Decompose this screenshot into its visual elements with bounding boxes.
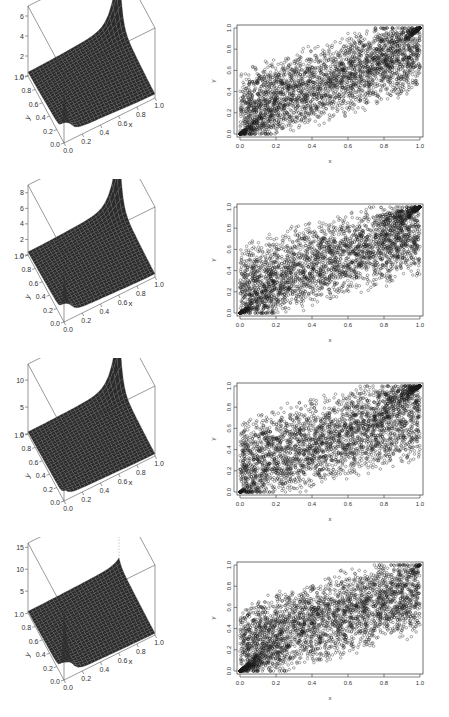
- data-point: [267, 482, 270, 485]
- data-point: [341, 107, 344, 110]
- y-tick-label: 1.0: [226, 23, 232, 32]
- y-axis-label: y: [23, 114, 33, 122]
- data-point: [280, 594, 283, 597]
- data-point: [278, 85, 281, 88]
- surface-plot-3: 0.00.20.40.60.81.00.00.20.40.60.81.00510…: [0, 358, 200, 537]
- data-point: [373, 564, 376, 567]
- panel-row-1: 0.00.20.40.60.81.00.00.20.40.60.81.00246…: [0, 0, 449, 179]
- data-point: [299, 628, 302, 631]
- y-tick-label: 0.2: [43, 486, 53, 493]
- data-point: [379, 389, 382, 392]
- data-point: [281, 262, 284, 265]
- data-point: [275, 629, 278, 632]
- data-point: [257, 241, 260, 244]
- x-tick: [119, 295, 121, 298]
- data-point: [300, 486, 303, 489]
- data-point: [332, 295, 335, 298]
- data-point: [283, 411, 286, 414]
- data-point: [294, 645, 297, 648]
- data-point: [361, 459, 364, 462]
- data-point: [321, 464, 324, 467]
- data-point: [327, 577, 330, 580]
- y-axis-label: y: [210, 259, 216, 262]
- data-point: [385, 285, 388, 288]
- data-point: [268, 131, 271, 134]
- data-point: [253, 246, 256, 249]
- data-point: [316, 301, 319, 304]
- data-point: [323, 394, 326, 397]
- data-point: [274, 488, 277, 491]
- y-tick: [32, 447, 35, 448]
- data-point: [404, 593, 407, 596]
- y-tick-label: 0.4: [226, 87, 232, 96]
- data-point: [367, 448, 370, 451]
- x-tick: [82, 671, 84, 674]
- data-point: [245, 78, 248, 81]
- data-point: [269, 605, 272, 608]
- data-point: [360, 291, 363, 294]
- data-point: [345, 440, 348, 443]
- data-point: [299, 484, 302, 487]
- data-point: [306, 586, 309, 589]
- data-point: [282, 667, 285, 670]
- data-point: [385, 462, 388, 465]
- data-point: [365, 408, 368, 411]
- y-tick: [25, 613, 28, 614]
- data-point: [418, 616, 421, 619]
- data-point: [251, 603, 254, 606]
- data-point: [360, 597, 363, 600]
- data-point: [357, 89, 360, 92]
- z-tick-label: 6: [20, 205, 24, 212]
- data-point: [335, 649, 338, 652]
- data-point: [243, 107, 246, 110]
- data-point: [368, 634, 371, 637]
- y-tick-label: 0.2: [226, 645, 232, 654]
- y-tick-label: 0.6: [226, 603, 232, 612]
- data-point: [307, 121, 310, 124]
- data-point: [291, 633, 294, 636]
- data-point: [339, 570, 342, 573]
- data-point: [417, 391, 420, 394]
- z-tick-label: 2: [20, 236, 24, 243]
- data-point: [340, 88, 343, 91]
- data-point: [359, 385, 362, 388]
- data-point: [285, 311, 288, 314]
- data-point: [293, 436, 296, 439]
- data-point: [288, 652, 291, 655]
- y-tick: [32, 268, 35, 269]
- x-tick-label: 0.0: [63, 326, 73, 333]
- y-tick: [61, 143, 64, 144]
- data-point: [368, 280, 371, 283]
- data-point: [246, 429, 249, 432]
- data-point: [314, 282, 317, 285]
- data-point: [367, 289, 370, 292]
- data-point: [274, 305, 277, 308]
- x-tick-label: 0.2: [272, 680, 281, 686]
- data-point: [267, 602, 270, 605]
- x-tick: [64, 143, 66, 146]
- data-point: [352, 648, 355, 651]
- z-tick-label: 10: [16, 566, 24, 573]
- data-point: [299, 491, 302, 494]
- data-point: [289, 489, 292, 492]
- x-tick-label: 1.0: [416, 322, 425, 328]
- y-tick-label: 0.2: [43, 307, 53, 314]
- data-point: [378, 449, 381, 452]
- surface-plot-4: 0.00.20.40.60.81.00.00.20.40.60.81.05101…: [0, 537, 200, 716]
- data-point: [413, 450, 416, 453]
- data-point: [315, 399, 318, 402]
- data-point: [358, 643, 361, 646]
- data-point: [247, 422, 250, 425]
- data-point: [409, 459, 412, 462]
- x-tick: [82, 492, 84, 495]
- data-point: [302, 438, 305, 441]
- x-tick-label: 0.2: [81, 138, 91, 145]
- data-point: [356, 217, 359, 220]
- data-point: [337, 102, 340, 105]
- data-point: [355, 284, 358, 287]
- x-tick-label: 1.0: [154, 460, 164, 467]
- data-point: [245, 245, 248, 248]
- data-point: [379, 468, 382, 471]
- data-point: [332, 53, 335, 56]
- data-point: [277, 63, 280, 66]
